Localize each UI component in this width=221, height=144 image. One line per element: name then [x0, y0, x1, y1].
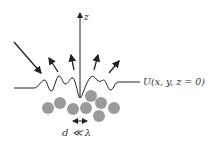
scattered-arrow	[71, 55, 74, 70]
particle	[85, 90, 97, 102]
scattered-arrow	[49, 58, 58, 72]
particle	[67, 103, 79, 115]
scattering-diagram: z U(x, y, z = 0) d ≪ λ	[0, 0, 221, 144]
incident-arrow	[14, 42, 41, 73]
particle	[42, 102, 54, 114]
particle	[95, 97, 107, 109]
particle	[108, 102, 120, 114]
particles	[42, 90, 120, 122]
scattered-arrow	[109, 61, 119, 73]
scattered-arrows	[49, 55, 119, 73]
particle	[54, 97, 66, 109]
particle	[93, 110, 105, 122]
surface-label: U(x, y, z = 0)	[143, 76, 205, 87]
surface-curve	[14, 76, 140, 98]
spacing-label: d ≪ λ	[62, 127, 91, 138]
particle	[80, 102, 92, 114]
z-axis-label: z	[83, 12, 89, 22]
scattered-arrow	[94, 55, 98, 70]
